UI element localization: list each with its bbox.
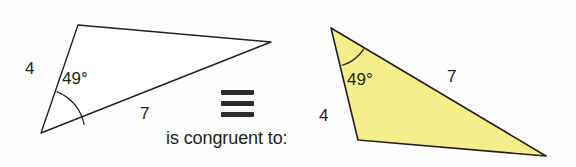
congruent-bar-middle [221,101,254,106]
right-side-label-7: 7 [447,67,456,86]
right-triangle-group: 49° 7 4 [319,28,546,156]
congruent-bar-bottom [221,112,254,117]
congruence-caption: is congruent to: [166,129,287,147]
congruent-triangles-diagram: 49° 4 7 49° 7 4 is congruent to: [0,0,576,167]
right-side-label-4: 4 [319,106,328,125]
left-side-label-7: 7 [140,104,149,123]
congruent-bar-top [221,90,254,95]
left-side-label-4: 4 [25,59,34,78]
left-angle-label: 49° [62,69,88,88]
congruent-symbol-icon [221,90,254,119]
right-angle-label: 49° [347,70,373,89]
triangles-figure: 49° 4 7 49° 7 4 [0,0,576,167]
shaded-triangle-shape [331,28,546,156]
